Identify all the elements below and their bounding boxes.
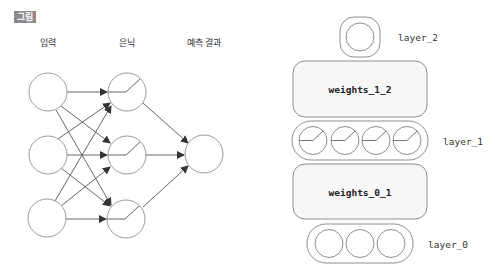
layer-1-block <box>292 121 428 160</box>
layer-2-block <box>340 17 380 57</box>
hidden-node <box>108 73 146 111</box>
layer-0-label: layer_0 <box>428 239 468 250</box>
input-nodes <box>28 73 67 237</box>
hidden-node <box>108 136 146 174</box>
output-node <box>185 135 223 173</box>
hidden-node <box>107 200 145 238</box>
layer-1-label: layer_1 <box>443 136 483 147</box>
input-node <box>29 136 67 174</box>
input-node <box>28 199 66 237</box>
input-node <box>29 73 67 111</box>
output-nodes <box>185 135 223 173</box>
weights-1-2-label: weights_1_2 <box>329 84 392 95</box>
layer-stack <box>292 17 428 263</box>
weights-0-1-label: weights_0_1 <box>329 187 392 198</box>
layer-0-block <box>307 224 413 263</box>
hidden-nodes <box>107 73 146 238</box>
layer-2-label: layer_2 <box>398 32 438 43</box>
hidden-output-connections <box>143 103 188 207</box>
